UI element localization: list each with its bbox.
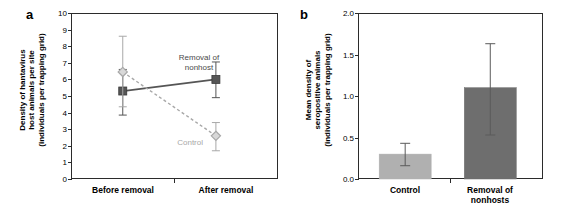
panel-a-x-label-before-removal: Before removal	[92, 185, 154, 195]
panel-a-marker-removal-of-nonhost-1	[212, 75, 220, 83]
panel-b-y-tick-mark-0.0	[355, 179, 359, 180]
panel-b-x-label-control: Control	[390, 185, 420, 195]
panel-a-y-tick-mark-7	[68, 63, 72, 64]
panel-a-y-tick-mark-5	[68, 96, 72, 97]
panel-b-y-tick-mark-1.0	[355, 96, 359, 97]
panel-a-y-tick-mark-2	[68, 146, 72, 147]
panel-b-x-label-removal: Removal of nonhosts	[467, 185, 513, 205]
panel-a-y-tick-mark-1	[68, 162, 72, 163]
panel-a: a Density of hantavirus host animals per…	[0, 0, 290, 220]
panel-a-y-tick-mark-0	[68, 179, 72, 180]
panel-a-y-tick-mark-8	[68, 46, 72, 47]
panel-b-x-label-removal-line1: Removal of	[467, 185, 513, 195]
series-label-removal-line1: Removal of	[168, 53, 230, 63]
series-label-removal-of-nonhost: Removal of nonhost	[168, 53, 230, 72]
series-label-removal-line2: nonhost	[168, 63, 230, 73]
panel-b-y-tick-mark-0.5	[355, 138, 359, 139]
panel-a-marker-control-1	[211, 131, 220, 140]
panel-a-y-tick-mark-3	[68, 129, 72, 130]
panel-a-x-label-after-removal: After removal	[199, 185, 254, 195]
panel-a-x-label-before-removal-text: Before removal	[92, 185, 154, 195]
panel-b-data-layer	[290, 0, 563, 220]
panel-b-y-tick-mark-1.5	[355, 55, 359, 56]
panel-a-x-label-after-removal-text: After removal	[199, 185, 254, 195]
panel-b: b Mean density of seropositive animals (…	[290, 0, 563, 220]
figure-container: a Density of hantavirus host animals per…	[0, 0, 563, 220]
panel-b-x-label-control-text: Control	[390, 185, 420, 195]
panel-a-y-tick-mark-4	[68, 113, 72, 114]
panel-b-y-tick-mark-2.0	[355, 13, 359, 14]
panel-a-marker-control-0	[118, 67, 127, 76]
panel-a-y-tick-mark-6	[68, 79, 72, 80]
panel-a-y-tick-mark-9	[68, 30, 72, 31]
panel-a-y-tick-mark-10	[68, 13, 72, 14]
panel-b-x-label-removal-line2: nonhosts	[467, 195, 513, 205]
series-label-control: Control	[161, 138, 203, 148]
